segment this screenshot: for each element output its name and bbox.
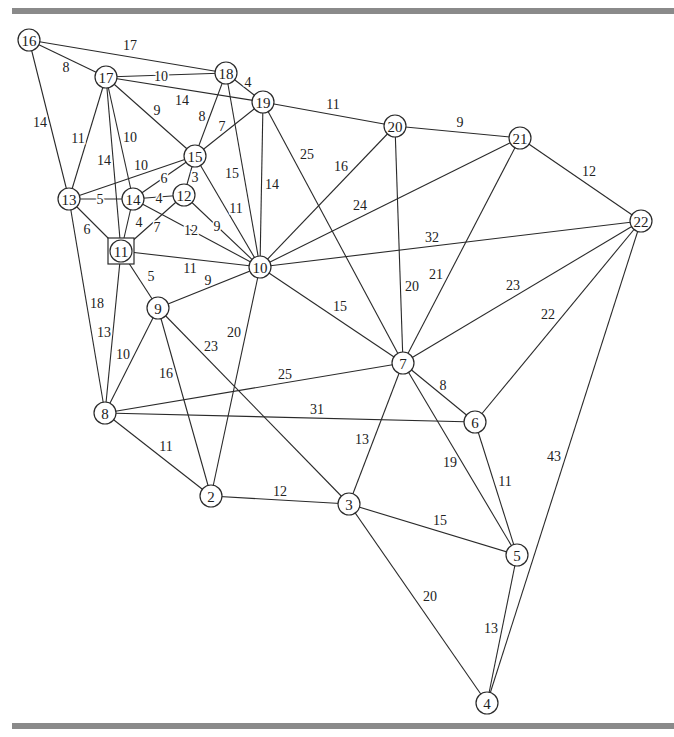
node-label: 11: [114, 244, 128, 260]
node-15: 15: [184, 145, 206, 167]
node-label: 12: [177, 188, 192, 204]
node-label: 17: [99, 70, 115, 86]
edge-weight-label: 5: [148, 269, 155, 284]
edge-9-2: [158, 308, 211, 496]
edge-weight-label: 14: [175, 93, 189, 108]
node-label: 9: [154, 301, 162, 317]
edge-22-4: [487, 221, 641, 703]
edge-weight-label: 10: [154, 69, 168, 84]
edge-20-10: [260, 126, 395, 267]
edge-weight-label: 15: [333, 299, 347, 314]
node-label: 14: [126, 192, 142, 208]
edge-6-5: [475, 422, 517, 555]
edge-weight-label: 5: [97, 192, 104, 207]
edge-weight-label: 9: [154, 103, 161, 118]
edge-weight-label: 11: [326, 97, 339, 112]
node-20: 20: [384, 115, 406, 137]
edge-weight-label: 8: [63, 60, 70, 75]
edge-21-7: [403, 138, 520, 363]
node-label: 19: [256, 95, 271, 111]
edge-weight-label: 31: [310, 402, 324, 417]
node-label: 22: [634, 214, 649, 230]
node-label: 4: [483, 696, 491, 712]
node-17: 17: [95, 66, 117, 88]
edge-weight-label: 18: [90, 296, 104, 311]
edge-weight-label: 21: [429, 267, 443, 282]
node-7: 7: [392, 352, 414, 374]
edge-weight-label: 11: [229, 201, 242, 216]
edge-weight-label: 22: [541, 307, 555, 322]
node-label: 15: [188, 149, 203, 165]
edge-weight-label: 9: [457, 115, 464, 130]
edge-21-10: [260, 138, 520, 267]
edge-9-8: [105, 308, 158, 413]
node-4: 4: [476, 692, 498, 714]
node-label: 20: [388, 119, 403, 135]
node-label: 21: [513, 131, 528, 147]
node-label: 18: [219, 66, 234, 82]
node-19: 19: [252, 91, 274, 113]
edge-weight-label: 10: [123, 130, 137, 145]
edge-3-4: [349, 504, 487, 703]
node-label: 8: [101, 406, 109, 422]
edges-layer: [29, 40, 641, 703]
node-21: 21: [509, 127, 531, 149]
edge-weight-label: 11: [183, 261, 196, 276]
node-label: 10: [253, 260, 268, 276]
edge-weight-label: 4: [136, 215, 143, 230]
edge-weight-label: 12: [273, 484, 287, 499]
node-label: 16: [22, 33, 38, 49]
edge-weight-label: 8: [440, 378, 447, 393]
edge-weight-label: 19: [443, 455, 457, 470]
edge-weight-label: 9: [214, 219, 221, 234]
node-3: 3: [338, 493, 360, 515]
edge-weight-label: 25: [300, 147, 314, 162]
node-9: 9: [147, 297, 169, 319]
edge-weight-label: 12: [582, 164, 596, 179]
edge-8-6: [105, 413, 475, 422]
edge-weight-label: 32: [425, 230, 439, 245]
edge-weight-label: 4: [245, 75, 252, 90]
edge-22-10: [260, 221, 641, 267]
edge-weight-label: 4: [156, 191, 163, 206]
node-11: 11: [108, 238, 134, 264]
node-label: 6: [471, 415, 479, 431]
edge-weight-label: 3: [192, 170, 199, 185]
edge-weight-label: 20: [423, 589, 437, 604]
node-13: 13: [58, 188, 80, 210]
edge-weight-label: 11: [159, 439, 172, 454]
edge-8-7: [105, 363, 403, 413]
edge-weight-label: 20: [227, 325, 241, 340]
node-18: 18: [215, 62, 237, 84]
edge-weight-label: 43: [547, 449, 561, 464]
edge-weight-label: 6: [161, 171, 168, 186]
edge-22-6: [475, 221, 641, 422]
edge-weight-label: 15: [225, 166, 239, 181]
edge-weight-label: 17: [123, 38, 137, 53]
node-6: 6: [464, 411, 486, 433]
node-label: 7: [399, 356, 407, 372]
edge-weight-label: 11: [498, 474, 511, 489]
edge-10-7: [260, 267, 403, 363]
node-2: 2: [200, 485, 222, 507]
edge-weight-label: 7: [219, 119, 226, 134]
edge-weight-label: 15: [433, 513, 447, 528]
edge-weight-label: 11: [71, 131, 84, 146]
edge-weight-label: 13: [355, 432, 369, 447]
node-14: 14: [122, 188, 144, 210]
edge-weight-label: 16: [334, 159, 348, 174]
node-label: 3: [345, 497, 353, 513]
edge-weight-label: 25: [278, 367, 292, 382]
edge-19-7: [263, 102, 403, 363]
edge-weight-label: 7: [154, 220, 161, 235]
edge-10-2: [211, 267, 260, 496]
edge-weight-label: 24: [353, 198, 367, 213]
node-label: 5: [513, 548, 521, 564]
node-label: 2: [207, 489, 215, 505]
edge-19-10: [260, 102, 263, 267]
edge-weight-label: 8: [199, 109, 206, 124]
node-22: 22: [630, 210, 652, 232]
edge-20-7: [395, 126, 403, 363]
edge-weight-label: 14: [97, 153, 111, 168]
node-8: 8: [94, 402, 116, 424]
